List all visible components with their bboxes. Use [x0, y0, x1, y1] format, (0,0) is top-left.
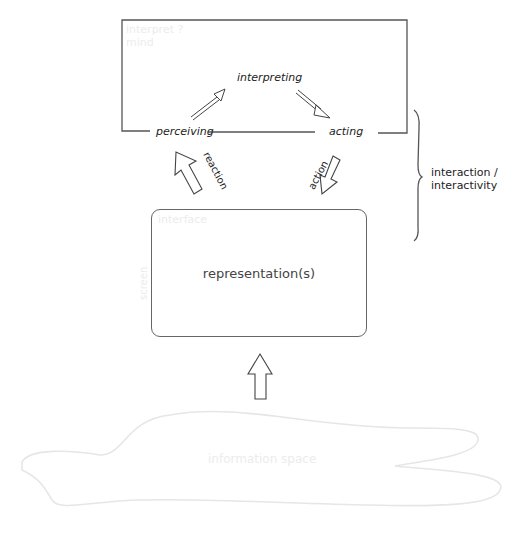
- top-box-faint-label: interpret ? mind: [126, 23, 183, 49]
- arrow-interpreting-to-acting: [296, 90, 330, 118]
- bracket-label: interaction / interactivity: [431, 166, 498, 192]
- representation-faint-vertical-label: screen: [138, 267, 149, 300]
- reaction-arrow: [175, 152, 202, 194]
- top-box-faint-label-line2: mind: [126, 36, 183, 49]
- bracket-label-line2: interactivity: [431, 179, 498, 192]
- node-interpreting: interpreting: [237, 71, 302, 84]
- information-space-label: information space: [208, 452, 316, 466]
- top-box-faint-label-line1: interpret ?: [126, 23, 183, 36]
- node-acting: acting: [329, 125, 363, 138]
- bracket-label-line1: interaction /: [431, 166, 498, 179]
- arrow-perceiving-to-interpreting: [191, 89, 225, 120]
- representation-box-faint-label: interface: [158, 213, 207, 226]
- up-arrow: [248, 354, 272, 399]
- representation-box: interface representation(s): [151, 209, 367, 337]
- representation-label: representation(s): [152, 266, 366, 281]
- node-perceiving: perceiving: [156, 125, 214, 138]
- curly-bracket: [414, 110, 422, 241]
